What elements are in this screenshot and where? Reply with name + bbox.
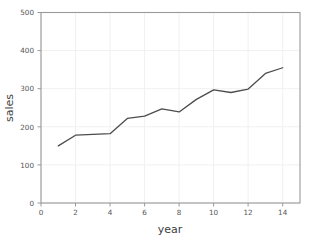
y-tick-label-0: 0 — [29, 199, 34, 208]
y-axis-title: sales — [3, 94, 16, 122]
x-tick-label-14: 14 — [278, 208, 288, 217]
y-tick-labels: 500 400 300 200 100 0 — [20, 8, 34, 208]
y-tick-label-500: 500 — [20, 8, 34, 17]
chart-figure: 500 400 300 200 100 0 0 2 4 6 8 10 12 14… — [0, 0, 313, 242]
x-tick-label-2: 2 — [73, 208, 78, 217]
x-tick-label-6: 6 — [142, 208, 147, 217]
x-tick-label-12: 12 — [244, 208, 253, 217]
x-tick-label-0: 0 — [39, 208, 44, 217]
line-chart-canvas: 500 400 300 200 100 0 0 2 4 6 8 10 12 14… — [0, 0, 313, 242]
plot-background — [41, 13, 300, 204]
y-tick-label-300: 300 — [20, 84, 34, 93]
y-tick-label-100: 100 — [20, 161, 34, 170]
x-tick-label-10: 10 — [209, 208, 219, 217]
x-tick-label-4: 4 — [108, 208, 113, 217]
x-axis-title: year — [158, 223, 183, 236]
x-tick-label-8: 8 — [177, 208, 182, 217]
y-tick-label-200: 200 — [20, 123, 34, 132]
y-tick-label-400: 400 — [20, 46, 34, 55]
x-tick-labels: 0 2 4 6 8 10 12 14 — [39, 208, 288, 217]
